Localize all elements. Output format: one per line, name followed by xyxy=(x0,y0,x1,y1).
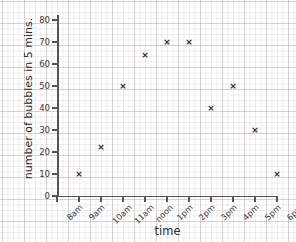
y-tick-mark xyxy=(52,107,58,108)
y-tick-label: 30 xyxy=(39,126,50,135)
y-tick-mark xyxy=(52,129,58,130)
y-axis-title: number of bubbles in 5 mins. xyxy=(22,9,35,189)
y-tick-label: 10 xyxy=(39,170,50,179)
x-tick-mark xyxy=(254,196,255,202)
x-tick-mark xyxy=(100,196,101,202)
y-tick-label: 40 xyxy=(39,104,50,113)
y-tick-mark xyxy=(52,41,58,42)
x-tick-mark xyxy=(276,196,277,202)
data-point-marker: × xyxy=(119,82,127,91)
data-point-marker: × xyxy=(185,38,193,47)
y-tick-label: 20 xyxy=(39,148,50,157)
x-tick-mark xyxy=(78,196,79,202)
x-tick-mark xyxy=(188,196,189,202)
x-tick-mark xyxy=(166,196,167,202)
x-tick-mark xyxy=(122,196,123,202)
y-tick-label: 70 xyxy=(39,38,50,47)
y-tick-label: 50 xyxy=(39,82,50,91)
y-tick-label: 60 xyxy=(39,60,50,69)
data-point-marker: × xyxy=(97,143,105,152)
y-tick-mark xyxy=(52,19,58,20)
y-tick-label: 0 xyxy=(45,192,50,201)
data-point-marker: × xyxy=(229,82,237,91)
data-point-marker: × xyxy=(273,170,281,179)
x-tick-mark xyxy=(210,196,211,202)
x-tick-mark xyxy=(232,196,233,202)
y-tick-mark xyxy=(52,63,58,64)
x-tick-mark xyxy=(56,196,57,202)
x-axis-title: time xyxy=(57,224,278,238)
y-tick-mark xyxy=(52,85,58,86)
data-point-marker: × xyxy=(141,51,149,60)
data-point-marker: × xyxy=(163,38,171,47)
data-point-marker: × xyxy=(207,104,215,113)
y-tick-mark xyxy=(52,173,58,174)
y-tick-label: 80 xyxy=(39,16,50,25)
scatter-chart: 01020304050607080 8am9am10am11amnoon1pm2… xyxy=(0,0,296,242)
data-point-marker: × xyxy=(75,170,83,179)
data-point-marker: × xyxy=(251,126,259,135)
x-tick-mark xyxy=(144,196,145,202)
y-tick-mark xyxy=(52,151,58,152)
